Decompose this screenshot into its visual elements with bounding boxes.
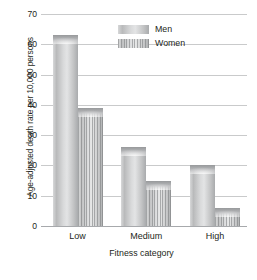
legend-label-men: Men: [155, 24, 172, 34]
bar-top-cap: [121, 147, 146, 156]
y-tick-label-70: 70: [27, 9, 37, 19]
bar-face: [78, 108, 103, 226]
gridline-0: [41, 226, 247, 227]
legend-swatch-women-icon: [118, 39, 149, 48]
bar-women-high: [215, 208, 240, 226]
bar-men-medium: [121, 147, 146, 226]
bar-face: [190, 165, 215, 226]
x-tick-label-low: Low: [69, 231, 86, 241]
bar-top-cap: [146, 181, 171, 190]
legend-swatch-men-icon: [118, 25, 149, 34]
x-axis-title: Fitness category: [0, 248, 257, 258]
bar-chart-figure: Age-adjusted death rate per 10,000 perso…: [0, 0, 257, 280]
bar-women-medium: [146, 181, 171, 226]
legend-label-women: Women: [155, 38, 185, 48]
x-tick-label-medium: Medium: [130, 231, 162, 241]
y-tick-label-10: 10: [27, 191, 37, 201]
bar-face: [53, 35, 78, 226]
bar-top-cap: [190, 165, 215, 174]
x-tick-label-high: High: [206, 231, 225, 241]
bar-top-cap: [215, 208, 240, 217]
bar-men-low: [53, 35, 78, 226]
y-tick-label-0: 0: [32, 221, 37, 231]
y-tick-label-50: 50: [27, 70, 37, 80]
bar-men-high: [190, 165, 215, 226]
y-tick-label-60: 60: [27, 39, 37, 49]
y-tick-label-40: 40: [27, 100, 37, 110]
legend-item-men: Men: [118, 24, 185, 34]
chart-legend: Men Women: [118, 24, 185, 48]
legend-item-women: Women: [118, 38, 185, 48]
y-tick-label-30: 30: [27, 130, 37, 140]
bar-face: [121, 147, 146, 226]
bar-top-cap: [78, 108, 103, 117]
bar-top-cap: [53, 35, 78, 44]
y-tick-label-20: 20: [27, 160, 37, 170]
bar-women-low: [78, 108, 103, 226]
